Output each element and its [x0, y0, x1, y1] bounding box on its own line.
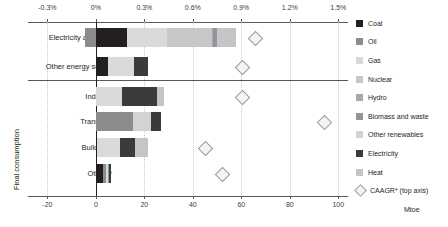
- legend-diamond-icon: [354, 184, 367, 197]
- bottom-axis-tick: [47, 196, 48, 199]
- gridline-vertical: [193, 22, 194, 196]
- legend-item-label: Oil: [368, 38, 377, 45]
- top-axis-line: [28, 22, 348, 23]
- top-axis-tick-label: 1.2%: [272, 4, 308, 11]
- legend-item[interactable]: Other renewables: [356, 126, 448, 145]
- caagr-marker: [235, 90, 251, 106]
- bottom-axis-tick: [338, 196, 339, 199]
- legend-swatch-icon: [356, 57, 363, 64]
- legend-item-label: Heat: [368, 169, 383, 176]
- legend-item-label: Biomass and waste: [368, 113, 429, 120]
- bar-segment: [122, 87, 157, 106]
- bar-segment: [108, 57, 133, 76]
- chart-legend: CoalOilGasNuclearHydroBiomass and wasteO…: [356, 14, 448, 200]
- bottom-axis-tick-label: 40: [175, 201, 211, 208]
- bottom-axis-tick: [241, 196, 242, 199]
- legend-item-label: Hydro: [368, 94, 387, 101]
- legend-item[interactable]: Gas: [356, 51, 448, 70]
- legend-swatch-icon: [356, 38, 363, 45]
- legend-item[interactable]: Hydro: [356, 88, 448, 107]
- bar-segment: [133, 112, 151, 131]
- top-axis-tick-label: 0%: [78, 4, 114, 11]
- bottom-axis-tick-label: 80: [272, 201, 308, 208]
- top-axis-tick-label: 0.9%: [223, 4, 259, 11]
- top-axis-tick-label: -0.3%: [29, 4, 65, 11]
- caagr-marker: [197, 141, 213, 157]
- bar-segment: [167, 28, 212, 47]
- gridline-vertical: [290, 22, 291, 196]
- legend-item[interactable]: Heat: [356, 163, 448, 182]
- legend-item[interactable]: Electricity: [356, 144, 448, 163]
- legend-item[interactable]: Biomass and waste: [356, 107, 448, 126]
- bar-segment: [217, 28, 236, 47]
- legend-item-label: Electricity: [368, 150, 398, 157]
- legend-swatch-icon: [356, 94, 363, 101]
- caagr-marker: [247, 31, 263, 47]
- legend-swatch-icon: [356, 76, 363, 83]
- bar-segment: [134, 57, 149, 76]
- bottom-axis-line: [28, 196, 348, 197]
- bar-segment: [96, 87, 122, 106]
- bottom-axis-tick-label: -20: [29, 201, 65, 208]
- bar-segment: [120, 138, 135, 157]
- top-axis-tick-label: 1.5%: [320, 4, 356, 11]
- bottom-axis-tick: [96, 196, 97, 199]
- bottom-axis-tick-label: 0: [78, 201, 114, 208]
- legend-item-label: Coal: [368, 20, 382, 27]
- bottom-axis-tick: [144, 196, 145, 199]
- bottom-axis-tick: [290, 196, 291, 199]
- legend-item[interactable]: Coal: [356, 14, 448, 33]
- x-axis-unit-label: Mtoe: [404, 206, 420, 213]
- bar-segment: [97, 138, 121, 157]
- gridline-vertical: [338, 22, 339, 196]
- bar-segment: [96, 112, 133, 131]
- group-label-final-consumption: Final consumption: [12, 129, 21, 190]
- legend-swatch-icon: [356, 113, 363, 120]
- bar-segment: [109, 164, 111, 183]
- legend-item-label: Other renewables: [368, 131, 423, 138]
- legend-swatch-icon: [356, 20, 363, 27]
- legend-item[interactable]: Nuclear: [356, 70, 448, 89]
- legend-item-label: Gas: [368, 57, 381, 64]
- legend-item[interactable]: CAAGR* (top axis): [356, 181, 448, 200]
- top-axis-tick-label: 0.6%: [175, 4, 211, 11]
- legend-swatch-icon: [356, 169, 363, 176]
- caagr-marker: [235, 60, 251, 76]
- caagr-marker: [215, 167, 231, 183]
- bottom-axis-tick: [193, 196, 194, 199]
- gridline-vertical: [241, 22, 242, 196]
- legend-item[interactable]: Oil: [356, 33, 448, 52]
- legend-swatch-icon: [356, 150, 363, 157]
- bar-segment: [85, 28, 96, 47]
- legend-item-label: CAAGR* (top axis): [370, 187, 428, 194]
- bar-segment: [135, 138, 149, 157]
- section-separator-line: [28, 80, 348, 81]
- legend-swatch-icon: [356, 131, 363, 138]
- bottom-axis-tick-label: 20: [126, 201, 162, 208]
- bar-segment: [151, 112, 162, 131]
- bottom-axis-tick-label: 100: [320, 201, 356, 208]
- bar-segment: [157, 87, 164, 106]
- bar-segment: [96, 164, 103, 183]
- top-axis-tick-label: 0.3%: [126, 4, 162, 11]
- gridline-vertical: [144, 22, 145, 196]
- bar-segment: [96, 28, 128, 47]
- bar-segment: [96, 57, 109, 76]
- bottom-axis-tick-label: 60: [223, 201, 259, 208]
- caagr-marker: [317, 115, 333, 131]
- chart-container: -0.3%0%0.3%0.6%0.9%1.2%1.5%-200204060801…: [0, 0, 448, 227]
- bar-segment: [127, 28, 166, 47]
- legend-item-label: Nuclear: [368, 76, 392, 83]
